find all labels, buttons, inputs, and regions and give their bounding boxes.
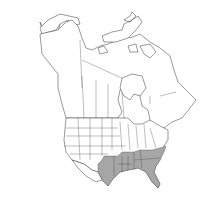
- range-map: [0, 0, 206, 198]
